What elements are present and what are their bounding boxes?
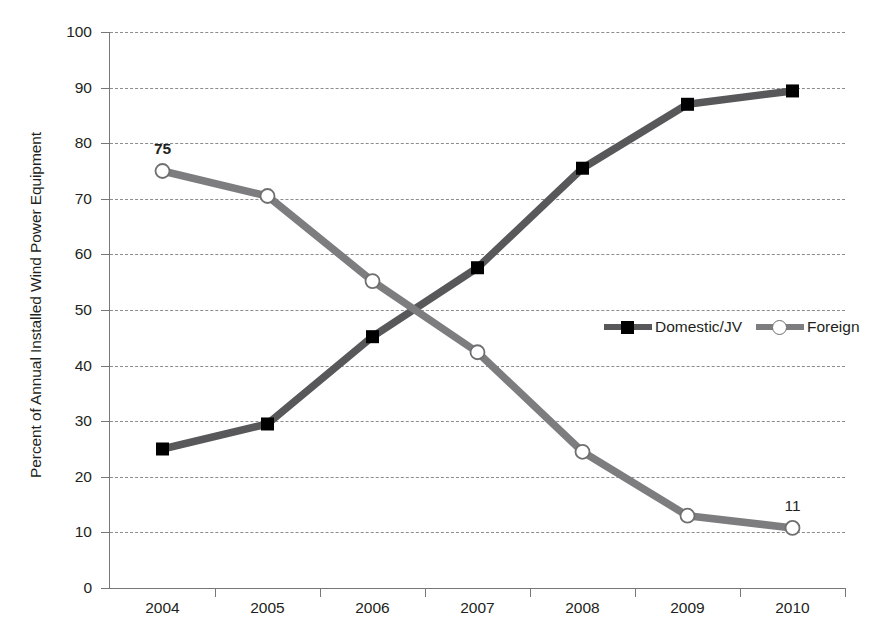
legend-label-foreign: Foreign bbox=[807, 318, 860, 336]
point-annotation-75: 75 bbox=[133, 141, 193, 157]
data-point-0-5[interactable] bbox=[681, 98, 694, 111]
legend-entry-foreign[interactable]: Foreign bbox=[756, 318, 860, 336]
data-point-0-0[interactable] bbox=[156, 443, 169, 456]
point-annotation-11: 11 bbox=[763, 498, 823, 514]
data-point-1-5[interactable] bbox=[681, 509, 695, 523]
data-point-0-4[interactable] bbox=[576, 162, 589, 175]
data-point-1-2[interactable] bbox=[366, 274, 380, 288]
series-domestic-jv bbox=[156, 84, 799, 455]
data-point-1-3[interactable] bbox=[471, 345, 485, 359]
data-point-1-4[interactable] bbox=[576, 445, 590, 459]
data-point-0-1[interactable] bbox=[261, 417, 274, 430]
data-point-0-3[interactable] bbox=[471, 261, 484, 274]
legend-swatch-foreign bbox=[756, 319, 804, 335]
data-point-1-6[interactable] bbox=[786, 521, 800, 535]
legend-swatch-domestic bbox=[604, 319, 652, 335]
data-point-0-6[interactable] bbox=[786, 84, 799, 97]
data-point-1-0[interactable] bbox=[156, 164, 170, 178]
legend-label-domestic: Domestic/JV bbox=[655, 318, 742, 336]
legend-entry-domestic[interactable]: Domestic/JV bbox=[604, 318, 742, 336]
data-point-0-2[interactable] bbox=[366, 330, 379, 343]
wind-power-equipment-line-chart: Percent of Annual Installed Wind Power E… bbox=[0, 0, 876, 638]
chart-legend: Domestic/JV Foreign bbox=[604, 318, 860, 336]
data-point-1-1[interactable] bbox=[261, 189, 275, 203]
series-foreign bbox=[156, 164, 800, 535]
legend-marker-circle-foreign bbox=[772, 320, 787, 335]
legend-marker-square-domestic bbox=[621, 321, 634, 334]
